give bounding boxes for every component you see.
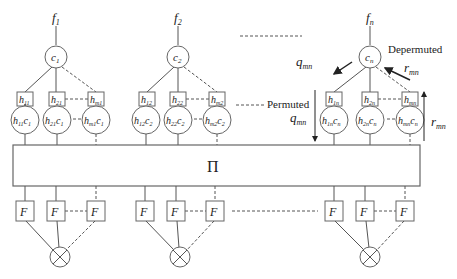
product-node-icon bbox=[50, 247, 70, 267]
svg-text:rmn: rmn bbox=[431, 114, 446, 131]
variable-group-n: fn cn h1n h2n hmn h1ncn h2ncn hmncn bbox=[320, 10, 424, 145]
function-nodes: F F F F F F bbox=[16, 186, 414, 267]
svg-text:Permuted: Permuted bbox=[267, 98, 310, 110]
svg-text:F: F bbox=[139, 205, 148, 219]
svg-text:qmn: qmn bbox=[290, 110, 306, 127]
svg-text:F: F bbox=[170, 205, 179, 219]
svg-text:F: F bbox=[328, 205, 337, 219]
factor-graph-diagram: f1 c1 h11 h21 hm1 h11c1 h21c1 hm1c1 f2 c… bbox=[0, 0, 457, 279]
svg-text:F: F bbox=[50, 205, 59, 219]
f1-label: f1 bbox=[52, 10, 60, 27]
interleaver-label: Π bbox=[207, 158, 219, 175]
svg-text:F: F bbox=[19, 205, 28, 219]
svg-text:F: F bbox=[209, 205, 218, 219]
product-node-icon bbox=[360, 247, 380, 267]
svg-text:F: F bbox=[399, 205, 408, 219]
variable-group-1: f1 c1 h11 h21 hm1 h11c1 h21c1 hm1c1 bbox=[11, 10, 110, 145]
svg-text:fn: fn bbox=[366, 10, 374, 27]
svg-text:Depermuted: Depermuted bbox=[388, 43, 443, 55]
svg-text:rmn: rmn bbox=[404, 60, 419, 77]
variable-group-2: f2 c2 h12 h22 hm2 h12c2 h22c2 hm2c2 bbox=[132, 10, 231, 145]
svg-text:F: F bbox=[90, 205, 99, 219]
svg-text:qmn: qmn bbox=[296, 54, 312, 71]
product-node-icon bbox=[170, 247, 190, 267]
svg-text:f2: f2 bbox=[174, 10, 182, 27]
svg-text:F: F bbox=[359, 205, 368, 219]
